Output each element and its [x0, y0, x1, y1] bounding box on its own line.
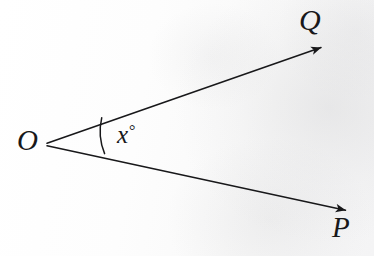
point-label-p: P: [332, 213, 350, 242]
angle-diagram-figure: O Q P x°: [0, 0, 374, 256]
diagram-canvas: [0, 0, 374, 256]
ray-oq-line: [47, 48, 321, 144]
degree-symbol-icon: °: [129, 122, 135, 139]
vertex-label-o: O: [17, 126, 38, 155]
angle-measure-label: x°: [117, 122, 136, 147]
point-label-q: Q: [299, 5, 321, 35]
ray-op-line: [47, 146, 346, 210]
angle-variable: x: [117, 121, 128, 148]
